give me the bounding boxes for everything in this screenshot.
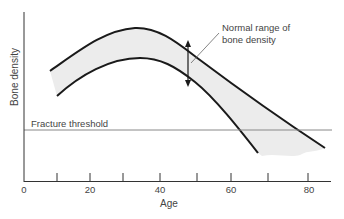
tick-label-40: 40 bbox=[155, 184, 166, 195]
annotation-line-1: Normal range of bbox=[222, 22, 290, 33]
tick-label-0: 0 bbox=[21, 184, 26, 195]
y-axis-title: Bone density bbox=[9, 48, 20, 106]
bone-density-diagram: Fracture threshold Normal range of bone … bbox=[0, 0, 344, 219]
annotation-line-2: bone density bbox=[222, 34, 276, 45]
annotation-label: Normal range of bone density bbox=[222, 22, 293, 45]
annotation-leader-line bbox=[191, 33, 219, 63]
tick-label-80: 80 bbox=[304, 184, 315, 195]
x-axis-title: Age bbox=[160, 198, 178, 209]
tick-label-60: 60 bbox=[226, 184, 237, 195]
fracture-threshold-label: Fracture threshold bbox=[31, 118, 108, 129]
tick-label-20: 20 bbox=[85, 184, 96, 195]
x-axis-tick-labels: 0 20 40 60 80 bbox=[21, 184, 314, 195]
x-axis-ticks bbox=[57, 173, 308, 181]
